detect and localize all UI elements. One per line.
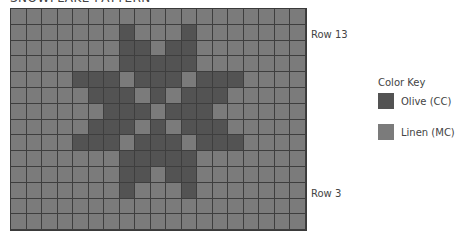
stitch-cell-cc [228,135,244,151]
stitch-cell-mc [151,199,167,215]
stitch-cell-cc [182,88,198,104]
stitch-cell-mc [42,25,58,41]
stitch-cell-mc [11,167,27,183]
stitch-cell-mc [244,214,260,230]
stitch-cell-cc [166,104,182,120]
stitch-cell-mc [244,104,260,120]
stitch-cell-mc [259,104,275,120]
stitch-cell-mc [135,88,151,104]
stitch-cell-mc [27,183,43,199]
stitch-cell-mc [275,25,291,41]
stitch-cell-mc [244,56,260,72]
stitch-cell-cc [135,104,151,120]
stitch-cell-mc [104,9,120,25]
stitch-cell-mc [259,25,275,41]
stitch-cell-cc [166,56,182,72]
row-label-bottom: Row 3 [311,188,341,199]
stitch-cell-mc [259,56,275,72]
stitch-cell-mc [11,9,27,25]
stitch-cell-mc [244,199,260,215]
stitch-cell-mc [290,25,306,41]
stitch-cell-mc [27,41,43,57]
stitch-cell-mc [182,135,198,151]
stitch-cell-mc [42,104,58,120]
stitch-cell-mc [275,9,291,25]
stitch-cell-mc [42,56,58,72]
stitch-cell-mc [42,120,58,136]
stitch-cell-mc [120,9,136,25]
stitch-cell-mc [73,88,89,104]
stitch-cell-mc [58,199,74,215]
stitch-cell-cc [89,88,105,104]
stitch-cell-mc [244,9,260,25]
stitch-cell-mc [290,41,306,57]
stitch-cell-mc [228,183,244,199]
stitch-cell-mc [213,167,229,183]
stitch-cell-mc [182,214,198,230]
stitch-cell-mc [135,9,151,25]
stitch-cell-cc [182,104,198,120]
stitch-cell-mc [73,120,89,136]
stitch-cell-mc [42,183,58,199]
legend-item-olive: Olive (CC) [378,93,453,109]
stitch-cell-mc [244,183,260,199]
row-label-top: Row 13 [311,29,348,40]
stitch-cell-mc [73,104,89,120]
stitch-cell-mc [11,72,27,88]
stitch-cell-mc [27,151,43,167]
stitch-cell-cc [135,167,151,183]
stitch-cell-mc [58,88,74,104]
stitch-cell-mc [120,214,136,230]
stitch-cell-mc [197,183,213,199]
stitch-cell-mc [244,120,260,136]
stitch-cell-mc [58,214,74,230]
stitch-cell-mc [73,183,89,199]
stitch-cell-mc [42,9,58,25]
stitch-cell-mc [166,183,182,199]
stitch-cell-mc [213,9,229,25]
stitch-cell-mc [27,72,43,88]
stitch-cell-mc [89,9,105,25]
stitch-cell-mc [213,25,229,41]
stitch-cell-cc [120,183,136,199]
stitch-cell-mc [42,88,58,104]
stitch-cell-cc [197,135,213,151]
stitch-cell-mc [259,41,275,57]
stitch-cell-mc [275,135,291,151]
stitch-cell-mc [11,56,27,72]
stitch-cell-mc [89,25,105,41]
stitch-cell-cc [197,88,213,104]
stitch-cell-mc [27,88,43,104]
stitch-cell-mc [290,56,306,72]
stitch-cell-mc [27,104,43,120]
stitch-cell-mc [244,151,260,167]
stitch-cell-cc [120,41,136,57]
stitch-cell-mc [11,120,27,136]
stitch-cell-mc [27,199,43,215]
stitch-cell-cc [151,151,167,167]
stitch-cell-mc [42,199,58,215]
stitch-cell-mc [73,56,89,72]
stitch-cell-mc [290,214,306,230]
stitch-cell-cc [166,135,182,151]
stitch-cell-mc [27,120,43,136]
stitch-cell-mc [27,9,43,25]
stitch-cell-cc [182,151,198,167]
stitch-cell-cc [120,120,136,136]
stitch-cell-mc [73,9,89,25]
stitch-cell-mc [275,72,291,88]
stitch-cell-mc [120,135,136,151]
stitch-cell-mc [290,9,306,25]
stitch-cell-mc [259,88,275,104]
stitch-cell-mc [290,167,306,183]
stitch-cell-cc [104,104,120,120]
stitch-cell-cc [213,72,229,88]
stitch-cell-cc [89,135,105,151]
stitch-cell-mc [120,199,136,215]
linen-swatch [378,124,394,140]
stitch-cell-cc [197,120,213,136]
stitch-cell-cc [182,183,198,199]
stitch-cell-mc [58,72,74,88]
legend-item-linen: Linen (MC) [378,124,453,140]
stitch-cell-mc [166,199,182,215]
